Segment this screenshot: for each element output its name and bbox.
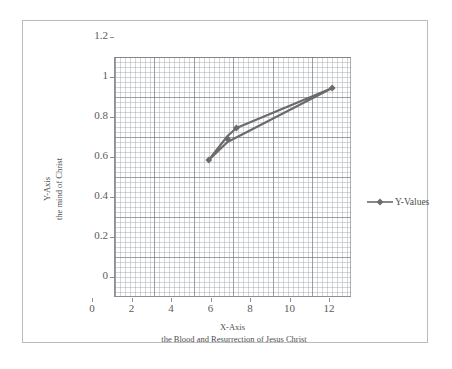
x-axis-title: X-Axis the Blood and Resurrection of Jes… bbox=[114, 321, 351, 345]
x-tick-label: 6 bbox=[196, 302, 226, 314]
y-tick-mark bbox=[110, 277, 114, 278]
y-tick-label: 0.4 bbox=[75, 189, 108, 201]
x-axis-title-main: X-Axis bbox=[114, 321, 351, 333]
x-tick-mark bbox=[250, 298, 251, 302]
series-line bbox=[209, 88, 332, 160]
x-tick-label: 8 bbox=[235, 302, 265, 314]
x-tick-mark bbox=[290, 298, 291, 302]
x-tick-label: 12 bbox=[314, 302, 344, 314]
chart-page: 00.20.40.60.811.2 024681012 X-Axis the B… bbox=[0, 0, 452, 369]
legend-label: Y-Values bbox=[395, 197, 429, 207]
series-y-values[interactable] bbox=[205, 85, 335, 164]
y-tick-label: 1.2 bbox=[75, 29, 108, 41]
y-axis-title-sub: the mind of Christ bbox=[53, 119, 65, 259]
x-tick-mark bbox=[171, 298, 172, 302]
y-tick-label: 0.6 bbox=[75, 149, 108, 161]
y-axis-title: Y-Axis the mind of Christ bbox=[41, 119, 65, 259]
y-tick-mark bbox=[110, 77, 114, 78]
y-tick-mark bbox=[110, 197, 114, 198]
x-tick-mark bbox=[211, 298, 212, 302]
y-tick-label: 0 bbox=[75, 269, 108, 281]
x-tick-label: 4 bbox=[156, 302, 186, 314]
y-tick-mark bbox=[110, 117, 114, 118]
legend-marker-icon bbox=[367, 197, 393, 207]
x-tick-label: 2 bbox=[117, 302, 147, 314]
y-tick-mark bbox=[110, 37, 114, 38]
x-tick-mark bbox=[329, 298, 330, 302]
y-tick-label: 0.8 bbox=[75, 109, 108, 121]
y-tick-label: 1 bbox=[75, 69, 108, 81]
x-axis-title-sub: the Blood and Resurrection of Jesus Chri… bbox=[54, 333, 414, 345]
x-tick-label: 10 bbox=[275, 302, 305, 314]
x-tick-mark bbox=[132, 298, 133, 302]
y-tick-mark bbox=[110, 157, 114, 158]
x-tick-mark bbox=[92, 298, 93, 302]
y-tick-mark bbox=[110, 237, 114, 238]
legend[interactable]: Y-Values bbox=[367, 197, 429, 207]
y-tick-label: 0.2 bbox=[75, 229, 108, 241]
x-tick-label: 0 bbox=[77, 302, 107, 314]
y-axis-title-main: Y-Axis bbox=[41, 119, 53, 259]
chart-frame: 00.20.40.60.811.2 024681012 X-Axis the B… bbox=[22, 20, 428, 343]
series-layer bbox=[114, 57, 351, 297]
